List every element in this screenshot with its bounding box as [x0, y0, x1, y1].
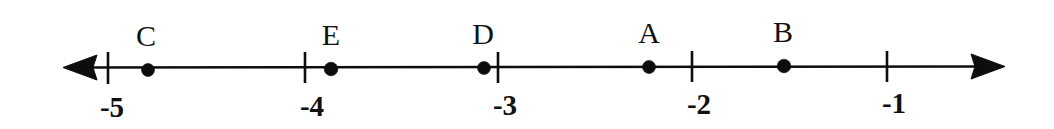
point-label-b: B [773, 17, 793, 47]
point-dot-e [324, 62, 338, 76]
point-label-c: C [136, 21, 156, 51]
arrow-right-icon [971, 54, 1005, 79]
point-dot-c [142, 64, 155, 77]
tick-label-minus5: -5 [100, 93, 124, 122]
point-dot-d [478, 62, 491, 75]
tick-label-minus4: -4 [300, 92, 324, 121]
number-line-figure: C E D A B -5 -4 -3 -2 -1 [0, 0, 1054, 129]
arrow-left-icon [63, 55, 97, 80]
tick-label-minus1: -1 [882, 89, 906, 118]
point-dot-b [777, 59, 791, 73]
tick-label-minus3: -3 [493, 91, 517, 120]
point-label-a: A [638, 18, 660, 48]
axis-line [72, 67, 996, 68]
point-label-e: E [322, 20, 340, 50]
point-label-d: D [472, 19, 494, 49]
point-dot-a [643, 61, 656, 74]
tick-label-minus2: -2 [687, 90, 711, 119]
